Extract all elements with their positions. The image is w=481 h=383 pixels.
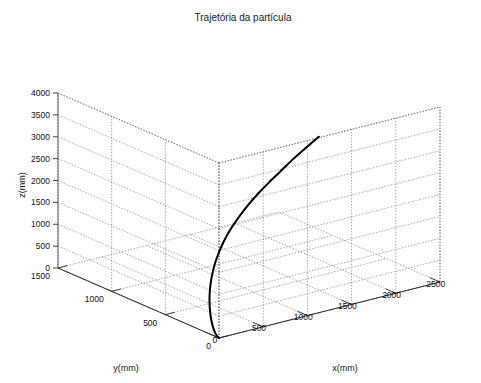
y-tick-label: 500 — [143, 318, 157, 328]
z-tick-label: 3500 — [31, 110, 50, 120]
wall-left-gridline-z — [58, 159, 219, 229]
box-edge-top-left — [58, 93, 219, 163]
z-tick-label: 4000 — [31, 88, 50, 98]
wall-right-gridline-z — [219, 238, 440, 294]
x-tick-label: 2000 — [382, 290, 401, 300]
floor-gridline-y — [58, 212, 279, 268]
floor-gridline-x — [279, 212, 440, 282]
y-tick-mark — [112, 289, 121, 291]
y-tick-label: 1000 — [85, 294, 104, 304]
wall-left-gridline-z — [58, 224, 219, 294]
z-tick-label: 3000 — [31, 132, 50, 142]
z-tick-label: 2500 — [31, 154, 50, 164]
z-tick-label: 2000 — [31, 176, 50, 186]
plot-box-edges — [58, 93, 440, 338]
trajectory-curve — [209, 137, 318, 338]
wall-left-gridline-z — [58, 137, 219, 207]
tick-marks-layer — [53, 93, 440, 338]
x-tick-label: 500 — [252, 323, 266, 333]
trajectory-3d-plot: Trajetória da partícula 0500100015002000… — [0, 0, 481, 383]
wall-right-gridline-z — [219, 151, 440, 207]
z-tick-label: 0 — [45, 263, 50, 273]
trajectory-curve-layer — [209, 137, 318, 338]
floor-gridline-x — [102, 257, 263, 327]
wall-right-gridline-z — [219, 195, 440, 251]
y-tick-label: 0 — [206, 341, 211, 351]
z-tick-label: 1000 — [31, 219, 50, 229]
grid-layer — [58, 93, 440, 338]
figure-canvas: Trajetória da partícula 0500100015002000… — [0, 0, 481, 383]
y-axis-label: y(mm) — [113, 363, 139, 373]
wall-right-gridline-z — [219, 260, 440, 316]
z-axis-label: z(mm) — [17, 172, 27, 198]
x-tick-label: 2500 — [426, 279, 445, 289]
wall-left-gridline-z — [58, 246, 219, 316]
box-edge-top-right — [219, 107, 440, 163]
y-tick-mark — [58, 266, 67, 268]
y-axis-line — [58, 268, 219, 338]
axes-layer — [58, 93, 440, 338]
chart-title: Trajetória da partícula — [195, 12, 292, 23]
wall-left-gridline-z — [58, 181, 219, 251]
x-axis-label: x(mm) — [332, 363, 358, 373]
wall-right-gridline-z — [219, 216, 440, 272]
floor-gridline-x — [235, 223, 396, 293]
x-tick-label: 1000 — [294, 312, 313, 322]
y-tick-mark — [219, 336, 228, 338]
wall-right-gridline-z — [219, 129, 440, 185]
z-tick-label: 1500 — [31, 197, 50, 207]
y-tick-mark — [165, 312, 174, 314]
z-tick-label: 500 — [36, 241, 50, 251]
wall-left-gridline-z — [58, 115, 219, 185]
x-tick-label: 1500 — [338, 301, 357, 311]
